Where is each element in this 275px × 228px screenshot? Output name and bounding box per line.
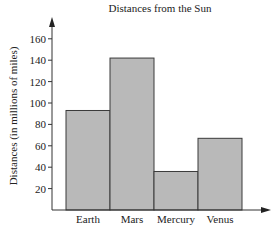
y-tick-label: 80 [35,118,47,130]
y-tick-label: 60 [35,140,47,152]
x-tick-label: Earth [76,213,100,225]
y-tick-label: 40 [35,161,47,173]
y-axis-ticks: 20406080100120140160 [30,33,53,195]
x-axis-labels: EarthMarsMercuryVenus [76,213,233,225]
y-tick-label: 140 [30,54,47,66]
x-tick-label: Venus [207,213,234,225]
bar-mercury [154,171,198,210]
bar-mars [110,58,154,210]
bar-earth [66,110,110,210]
y-tick-label: 120 [30,76,47,88]
bar-venus [198,138,242,210]
y-tick-label: 160 [30,33,47,45]
x-axis-arrow-icon [261,207,271,213]
y-tick-label: 20 [35,183,47,195]
x-tick-label: Mars [121,213,144,225]
x-tick-label: Mercury [157,213,195,225]
bars-group [66,58,242,210]
chart-title: Distances from the Sun [109,2,212,14]
y-axis-label: Distances (in millions of miles) [7,46,20,185]
y-axis-arrow-icon [49,17,55,27]
y-tick-label: 100 [30,97,47,109]
bar-chart: Distances from the Sun Distances (in mil… [0,0,275,228]
